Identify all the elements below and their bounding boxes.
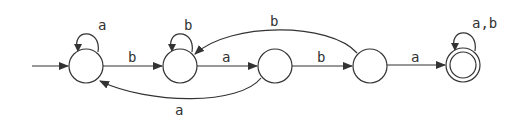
label-q0-q0: a [98,17,106,33]
automaton-diagram: a b b a a b b a a,b [0,0,524,122]
state-q0 [69,49,103,83]
state-q4-accepting-inner [450,52,476,78]
label-q4-q4: a,b [472,15,497,31]
state-q3 [353,49,387,83]
label-q1-q1: b [184,17,192,33]
label-q2-q0: a [175,102,183,118]
state-q1 [163,49,197,83]
label-q1-q2: a [222,49,230,65]
label-q0-q1: b [128,49,136,65]
label-q2-q3: b [317,49,325,65]
state-q2 [258,49,292,83]
label-q3-q4: a [411,49,419,65]
label-q3-q1: b [270,13,278,29]
